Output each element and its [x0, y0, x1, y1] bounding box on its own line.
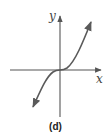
cubic-curve	[33, 22, 91, 107]
cubic-graph-figure: y x (d)	[0, 0, 111, 140]
x-axis-label: x	[96, 73, 103, 85]
y-axis-label: y	[49, 10, 56, 22]
figure-caption: (d)	[0, 122, 111, 132]
